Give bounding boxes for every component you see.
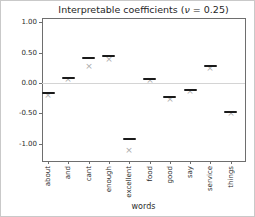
x-tick-label-enough: enough [105, 166, 113, 194]
x-tick-text: excellent [125, 166, 133, 198]
x-marker-cant: × [85, 62, 93, 71]
dash-marker-excellent [123, 138, 136, 140]
x-marker-excellent: × [125, 146, 133, 155]
x-tick-text: things [227, 166, 235, 188]
y-tick-mark [39, 144, 42, 145]
x-tick-mark [89, 161, 90, 164]
x-tick-text: service [206, 166, 214, 191]
x-tick-mark [48, 161, 49, 164]
x-tick-label-food: food [146, 166, 154, 183]
x-tick-text: and [64, 166, 72, 179]
y-tick-mark [39, 53, 42, 54]
dash-marker-say [184, 89, 197, 91]
chart-title: Interpretable coefficients (ν = 0.25) [42, 4, 245, 16]
dash-marker-good [163, 96, 176, 98]
x-tick-text: about [44, 166, 52, 186]
x-tick-text: say [186, 166, 194, 178]
dash-marker-food [143, 78, 156, 80]
x-tick-label-say: say [186, 166, 194, 180]
y-tick-label: 0.50 [1, 49, 37, 57]
x-tick-label-and: and [64, 166, 72, 181]
dash-marker-cant [82, 57, 95, 59]
chart-figure: Interpretable coefficients (ν = 0.25) wo… [0, 0, 255, 217]
x-tick-text: food [146, 166, 154, 181]
chart-title-text: Interpretable coefficients ( [58, 4, 184, 15]
y-tick-mark [39, 83, 42, 84]
dash-marker-about [42, 92, 55, 94]
x-tick-label-excellent: excellent [125, 166, 133, 200]
zero-gridline [42, 83, 245, 84]
y-tick-label: 1.00 [1, 18, 37, 26]
x-tick-text: enough [105, 166, 113, 192]
x-tick-text: good [166, 166, 174, 183]
x-tick-label-about: about [44, 166, 52, 188]
dash-marker-service [204, 65, 217, 67]
chart-title-suffix: = 0.25) [190, 4, 229, 15]
x-tick-mark [170, 161, 171, 164]
y-tick-label: -0.50 [1, 109, 37, 117]
x-tick-mark [231, 161, 232, 164]
dash-marker-enough [102, 55, 115, 57]
y-tick-label: 0.00 [1, 79, 37, 87]
x-tick-mark [129, 161, 130, 164]
dash-marker-things [224, 111, 237, 113]
y-tick-mark [39, 113, 42, 114]
x-tick-label-service: service [206, 166, 214, 193]
x-tick-mark [210, 161, 211, 164]
x-tick-mark [68, 161, 69, 164]
x-axis-label: words [42, 202, 245, 211]
x-tick-mark [109, 161, 110, 164]
x-tick-text: cant [85, 166, 93, 181]
dash-marker-and [62, 77, 75, 79]
x-tick-label-good: good [166, 166, 174, 185]
x-tick-label-things: things [227, 166, 235, 190]
x-tick-mark [190, 161, 191, 164]
x-tick-label-cant: cant [85, 166, 93, 183]
y-tick-mark [39, 22, 42, 23]
plot-area [42, 18, 246, 162]
x-tick-mark [150, 161, 151, 164]
y-tick-label: -1.00 [1, 140, 37, 148]
